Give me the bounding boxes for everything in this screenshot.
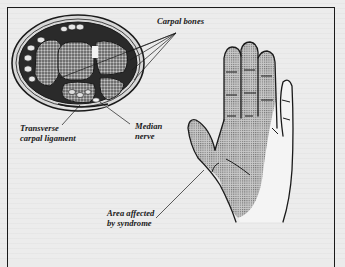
hand-illustration bbox=[188, 42, 293, 222]
label-median-nerve: Median nerve bbox=[135, 122, 162, 141]
wrist-cross-section bbox=[12, 15, 144, 111]
nerve-leader bbox=[100, 102, 130, 124]
median-nerve bbox=[93, 98, 100, 102]
label-carpal-bones: Carpal bones bbox=[157, 17, 204, 27]
label-transverse-carpal-ligament: Transverse carpal ligament bbox=[20, 124, 76, 143]
label-area-affected: Area affected by syndrome bbox=[107, 209, 154, 228]
affected-area-leader bbox=[156, 170, 204, 218]
